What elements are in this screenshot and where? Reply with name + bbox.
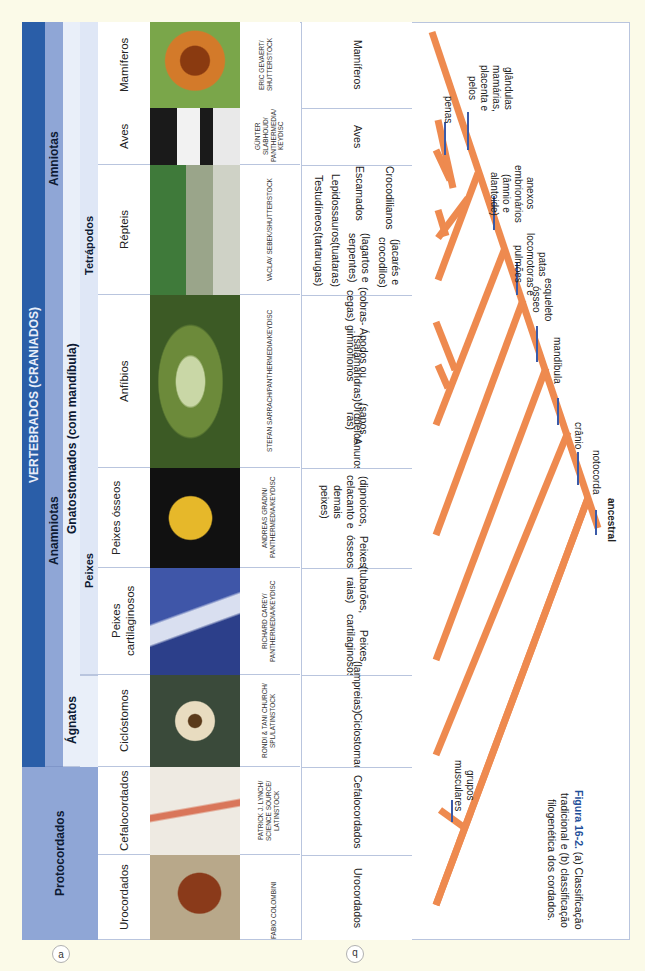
figure-caption: Figura 16-2. (a) Classificação tradicion…: [555, 790, 585, 930]
trait-grupos-musculares: grupos musculares: [450, 760, 476, 802]
badge-b: b: [346, 945, 364, 963]
trait-mandibula: mandíbula: [551, 333, 563, 388]
trait-patas-pulmoes: patas locomotoras e pulmões: [512, 228, 548, 300]
trait-cranio: crânio: [572, 418, 584, 454]
trait-notocorda: notocorda: [590, 447, 602, 497]
trait-penas: penas: [442, 95, 454, 125]
trait-anexos-embrionarios: anexos embrionários (âmnio e alantoide): [488, 156, 536, 231]
trait-ancestral: ancestral: [605, 490, 617, 550]
trait-glandulas: glândulas mamárias, placenta e pelos: [466, 62, 514, 114]
figure-caption-number: Figura 16-2.: [573, 790, 585, 849]
